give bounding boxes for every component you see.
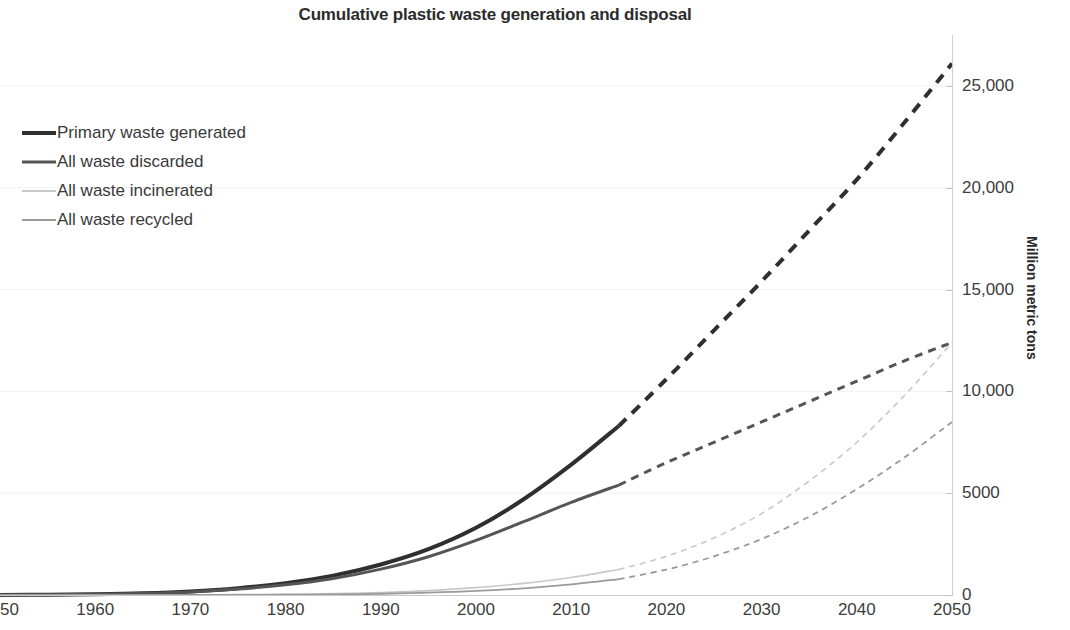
chart-figure: Cumulative plastic waste generation and … <box>0 0 1070 630</box>
x-axis-tick-label: 2040 <box>838 600 876 620</box>
legend-item-all-waste-recycled[interactable]: All waste recycled <box>22 205 342 234</box>
x-axis-tick-label: 1960 <box>76 600 114 620</box>
y-axis-tick-mark <box>946 86 953 87</box>
x-axis-tick-label: 2020 <box>647 600 685 620</box>
y-axis-tick-label: 10,000 <box>962 381 1014 401</box>
x-axis-tick-label: 1950 <box>0 600 19 620</box>
y-axis-tick-label: 20,000 <box>962 178 1014 198</box>
y-axis-tick-mark <box>946 493 953 494</box>
legend-item-label: All waste discarded <box>56 153 203 170</box>
y-axis-tick-label: 5000 <box>962 483 1000 503</box>
legend-swatch-icon <box>22 213 56 227</box>
y-axis-tick-label: 25,000 <box>962 76 1014 96</box>
chart-title: Cumulative plastic waste generation and … <box>0 5 990 25</box>
legend-item-all-waste-incinerated[interactable]: All waste incinerated <box>22 176 342 205</box>
y-axis-tick-mark <box>946 391 953 392</box>
legend-item-label: Primary waste generated <box>56 124 246 141</box>
x-axis-tick-label: 2010 <box>552 600 590 620</box>
chart-legend: Primary waste generated All waste discar… <box>22 118 342 234</box>
legend-item-primary-waste-generated[interactable]: Primary waste generated <box>22 118 342 147</box>
legend-item-label: All waste incinerated <box>56 182 213 199</box>
y-axis-title: Million metric tons <box>1024 236 1040 360</box>
x-axis-tick-label: 1970 <box>171 600 209 620</box>
x-axis-tick-label: 2000 <box>457 600 495 620</box>
x-axis-tick-label: 1990 <box>362 600 400 620</box>
x-axis-tick-label: 1980 <box>267 600 305 620</box>
x-axis-tick-label: 2030 <box>743 600 781 620</box>
x-axis-line <box>0 595 953 596</box>
legend-item-all-waste-discarded[interactable]: All waste discarded <box>22 147 342 176</box>
legend-item-label: All waste recycled <box>56 211 193 228</box>
legend-swatch-icon <box>22 126 56 140</box>
y-axis-tick-mark <box>946 290 953 291</box>
y-axis-tick-mark <box>946 188 953 189</box>
y-axis-tick-label: 15,000 <box>962 280 1014 300</box>
x-axis-tick-label: 2050 <box>933 600 971 620</box>
legend-swatch-icon <box>22 184 56 198</box>
y-axis-line <box>952 35 953 596</box>
y-axis-tick-mark <box>946 595 953 596</box>
legend-swatch-icon <box>22 155 56 169</box>
